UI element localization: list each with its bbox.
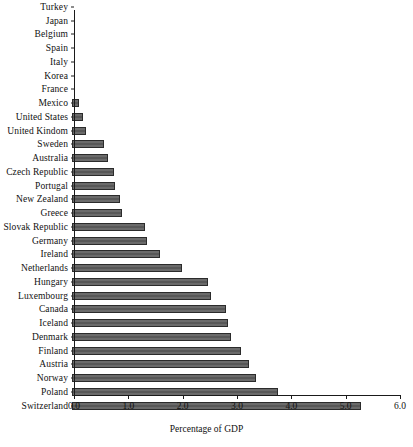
chart-row: Slovak Republic bbox=[0, 220, 413, 234]
bar bbox=[72, 195, 120, 203]
category-label: Spain bbox=[0, 43, 72, 53]
bar-track bbox=[72, 14, 413, 28]
bar-track bbox=[72, 358, 413, 372]
x-tick-mark bbox=[74, 395, 75, 399]
category-label: Sweden bbox=[0, 139, 72, 149]
bar bbox=[72, 360, 249, 368]
chart-row: Portugal bbox=[0, 179, 413, 193]
category-label: Czech Republic bbox=[0, 167, 72, 177]
bar-track bbox=[72, 289, 413, 303]
bar-track bbox=[72, 69, 413, 83]
chart-row: New Zealand bbox=[0, 193, 413, 207]
bar bbox=[72, 223, 145, 231]
category-label: Germany bbox=[0, 236, 72, 246]
category-label: Norway bbox=[0, 373, 72, 383]
x-axis-title: Percentage of GDP bbox=[0, 424, 413, 434]
x-tick-mark bbox=[346, 395, 347, 399]
chart-row: Ireland bbox=[0, 248, 413, 262]
x-tick-mark bbox=[400, 395, 401, 399]
bar-track bbox=[72, 220, 413, 234]
bar bbox=[72, 319, 228, 327]
category-label: United Kindom bbox=[0, 126, 72, 136]
bar bbox=[72, 264, 182, 272]
x-tick-label: 0.0 bbox=[68, 401, 80, 412]
bar bbox=[72, 347, 241, 355]
bar-track bbox=[72, 330, 413, 344]
bar-track bbox=[72, 41, 413, 55]
bar-track bbox=[72, 275, 413, 289]
chart-row: Czech Republic bbox=[0, 165, 413, 179]
bar-track bbox=[72, 248, 413, 262]
category-label: Belgium bbox=[0, 29, 72, 39]
bar-track bbox=[72, 261, 413, 275]
category-label: Turkey bbox=[0, 2, 72, 12]
x-tick-label: 3.0 bbox=[231, 401, 243, 412]
x-tick-mark bbox=[291, 395, 292, 399]
bar bbox=[72, 333, 231, 341]
chart-row: Sweden bbox=[0, 138, 413, 152]
bar-track bbox=[72, 110, 413, 124]
category-label: Denmark bbox=[0, 332, 72, 342]
chart-row: Finland bbox=[0, 344, 413, 358]
category-label: Japan bbox=[0, 16, 72, 26]
chart-row: Denmark bbox=[0, 330, 413, 344]
x-tick-mark bbox=[128, 395, 129, 399]
chart-row: Germany bbox=[0, 234, 413, 248]
x-tick-label: 2.0 bbox=[177, 401, 189, 412]
bar bbox=[72, 374, 256, 382]
x-tick-label: 4.0 bbox=[285, 401, 297, 412]
category-label: France bbox=[0, 84, 72, 94]
category-label: Austria bbox=[0, 359, 72, 369]
bar-track bbox=[72, 303, 413, 317]
chart-row: United States bbox=[0, 110, 413, 124]
bar bbox=[72, 140, 104, 148]
chart-row: Italy bbox=[0, 55, 413, 69]
bar-track bbox=[72, 371, 413, 385]
bar-chart: TurkeyJapanBelgiumSpainItalyKoreaFranceM… bbox=[0, 0, 413, 447]
category-label: Slovak Republic bbox=[0, 222, 72, 232]
chart-row: Austria bbox=[0, 358, 413, 372]
category-label: Australia bbox=[0, 153, 72, 163]
bar bbox=[72, 237, 147, 245]
chart-row: Australia bbox=[0, 151, 413, 165]
chart-row: Netherlands bbox=[0, 261, 413, 275]
x-tick-label: 6.0 bbox=[394, 401, 406, 412]
chart-row: Greece bbox=[0, 206, 413, 220]
x-axis-ticks: 0.01.02.03.04.05.06.0 bbox=[0, 395, 413, 425]
chart-row: France bbox=[0, 83, 413, 97]
chart-row: Mexico bbox=[0, 96, 413, 110]
category-label: Netherlands bbox=[0, 263, 72, 273]
bar-track bbox=[72, 124, 413, 138]
chart-rows: TurkeyJapanBelgiumSpainItalyKoreaFranceM… bbox=[0, 0, 413, 385]
chart-row: Iceland bbox=[0, 316, 413, 330]
bar bbox=[72, 154, 108, 162]
bar-track bbox=[72, 83, 413, 97]
x-tick-mark bbox=[183, 395, 184, 399]
y-axis-line bbox=[74, 10, 75, 396]
bar bbox=[72, 305, 226, 313]
bar-track bbox=[72, 28, 413, 42]
chart-row: United Kindom bbox=[0, 124, 413, 138]
chart-row: Luxembourg bbox=[0, 289, 413, 303]
chart-row: Japan bbox=[0, 14, 413, 28]
x-tick-label: 5.0 bbox=[340, 401, 352, 412]
bar-track bbox=[72, 179, 413, 193]
bar bbox=[72, 250, 160, 258]
category-label: New Zealand bbox=[0, 194, 72, 204]
bar-track bbox=[72, 55, 413, 69]
category-label: Iceland bbox=[0, 318, 72, 328]
chart-row: Turkey bbox=[0, 0, 413, 14]
bar-track bbox=[72, 344, 413, 358]
bar bbox=[72, 168, 114, 176]
bar-track bbox=[72, 316, 413, 330]
category-label: United States bbox=[0, 112, 72, 122]
category-label: Canada bbox=[0, 304, 72, 314]
bar bbox=[72, 209, 122, 217]
bar-track bbox=[72, 234, 413, 248]
category-label: Luxembourg bbox=[0, 291, 72, 301]
bar-track bbox=[72, 193, 413, 207]
bar-track bbox=[72, 165, 413, 179]
bar-track bbox=[72, 0, 413, 14]
category-label: Ireland bbox=[0, 249, 72, 259]
category-label: Korea bbox=[0, 71, 72, 81]
